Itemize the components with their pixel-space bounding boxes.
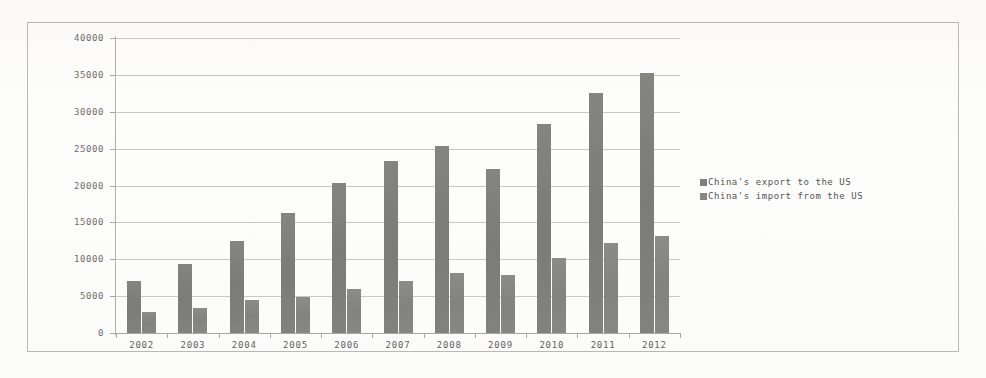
y-axis-tick-label: 5000: [80, 291, 104, 301]
y-axis-tick-label: 35000: [74, 70, 104, 80]
bar-export-2008: [435, 146, 449, 333]
bar-import-2012: [655, 236, 669, 333]
bar-import-2006: [347, 289, 361, 333]
y-axis-tick-label: 20000: [74, 181, 104, 191]
bar-export-2002: [127, 281, 141, 333]
x-axis-tick-mark: [219, 334, 220, 338]
x-axis-tick-label-2003: 2003: [180, 340, 205, 350]
y-axis-tick-label: 40000: [74, 33, 104, 43]
x-axis-tick-label-2004: 2004: [232, 340, 257, 350]
y-axis-tick-label: 15000: [74, 217, 104, 227]
x-axis-tick-mark: [424, 334, 425, 338]
x-axis-tick-label-2011: 2011: [591, 340, 616, 350]
legend-swatch-export: [700, 179, 707, 186]
bar-export-2010: [537, 124, 551, 333]
x-axis-tick-mark: [577, 334, 578, 338]
bar-import-2005: [296, 297, 310, 333]
x-axis-tick-mark: [680, 334, 681, 338]
x-axis-tick-label-2005: 2005: [283, 340, 308, 350]
legend-item-export[interactable]: China's export to the US: [700, 176, 930, 188]
x-axis-tick-label-2007: 2007: [386, 340, 411, 350]
y-axis-tick-label: 10000: [74, 254, 104, 264]
y-axis-tick-label: 0: [98, 328, 104, 338]
gridline: [116, 75, 680, 76]
bar-export-2006: [332, 183, 346, 333]
bar-import-2004: [245, 300, 259, 333]
bar-export-2004: [230, 241, 244, 333]
x-axis-tick-mark: [116, 334, 117, 338]
x-axis-line: [115, 333, 681, 334]
x-axis-tick-mark: [372, 334, 373, 338]
bar-import-2003: [193, 308, 207, 333]
bar-import-2009: [501, 275, 515, 333]
bar-import-2007: [399, 281, 413, 333]
x-axis-tick-label-2008: 2008: [437, 340, 462, 350]
bar-export-2007: [384, 161, 398, 333]
bar-export-2005: [281, 213, 295, 333]
bar-export-2011: [589, 93, 603, 333]
bar-import-2002: [142, 312, 156, 333]
gridline: [116, 38, 680, 39]
plot-area: [116, 38, 680, 333]
x-axis-tick-label-2012: 2012: [642, 340, 667, 350]
y-axis-tick-label: 30000: [74, 107, 104, 117]
x-axis-tick-mark: [629, 334, 630, 338]
bar-export-2012: [640, 73, 654, 333]
x-axis-tick-label-2002: 2002: [129, 340, 154, 350]
bar-import-2011: [604, 243, 618, 333]
bar-export-2003: [178, 264, 192, 333]
legend-label-import: China's import from the US: [708, 191, 863, 201]
chart-screenshot: 0500010000150002000025000300003500040000…: [0, 0, 986, 378]
x-axis-tick-mark: [321, 334, 322, 338]
x-axis-tick-mark: [167, 334, 168, 338]
x-axis-tick-label-2010: 2010: [539, 340, 564, 350]
bar-import-2010: [552, 258, 566, 333]
y-axis-tick-labels: 0500010000150002000025000300003500040000: [40, 0, 104, 378]
y-axis-tick-label: 25000: [74, 144, 104, 154]
legend-label-export: China's export to the US: [708, 177, 851, 187]
bar-import-2008: [450, 273, 464, 333]
x-axis-tick-label-2009: 2009: [488, 340, 513, 350]
x-axis-tick-mark: [270, 334, 271, 338]
legend-swatch-import: [700, 193, 707, 200]
x-axis-tick-label-2006: 2006: [334, 340, 359, 350]
legend-item-import[interactable]: China's import from the US: [700, 190, 930, 202]
bar-export-2009: [486, 169, 500, 333]
x-axis-tick-mark: [526, 334, 527, 338]
x-axis-tick-mark: [475, 334, 476, 338]
chart-legend: China's export to the US China's import …: [700, 176, 930, 204]
